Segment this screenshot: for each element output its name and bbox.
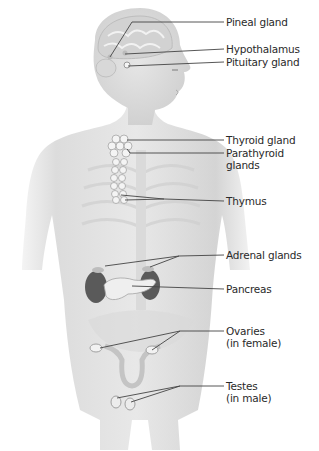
- pituitary-gland: [124, 62, 130, 68]
- label-hypothalamus: Hypothalamus: [226, 43, 300, 55]
- cerebellum: [96, 59, 116, 77]
- label-thyroid-gland: Thyroid gland: [226, 134, 295, 146]
- label-pituitary-gland: Pituitary gland: [226, 56, 299, 68]
- body-silhouette: [22, 95, 250, 450]
- left-kidney: [85, 271, 107, 303]
- testis-right: [125, 398, 135, 410]
- label-pineal-gland: Pineal gland: [226, 16, 288, 28]
- label-ovaries: Ovaries (in female): [226, 325, 281, 349]
- label-thymus: Thymus: [226, 195, 266, 207]
- label-parathyroid-glands: Parathyroid glands: [226, 147, 284, 171]
- label-adrenal-glands: Adrenal glands: [226, 249, 302, 261]
- label-pancreas: Pancreas: [226, 283, 272, 295]
- label-testes: Testes (in male): [226, 380, 271, 404]
- hypothalamus-gland: [123, 51, 128, 56]
- head: [94, 8, 191, 125]
